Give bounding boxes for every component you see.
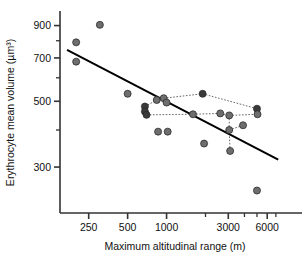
x-tick-label: 250 (80, 221, 98, 233)
data-point (153, 96, 160, 103)
y-tick-label: 900 (33, 19, 51, 31)
data-point (226, 127, 233, 134)
regression-trend-line (67, 50, 278, 160)
data-point (226, 112, 233, 119)
x-axis-title: Maximum altitudinal range (m) (104, 240, 245, 252)
data-point (143, 111, 150, 118)
data-point (227, 147, 234, 154)
connection-line (229, 114, 257, 115)
y-axis-title: Erythrocyte mean volume (µm³) (4, 39, 16, 186)
data-point (217, 110, 224, 117)
data-point (96, 21, 103, 28)
data-point (73, 58, 80, 65)
y-tick-label: 500 (33, 95, 51, 107)
x-tick-label: 1000 (155, 221, 179, 233)
data-point (240, 122, 247, 129)
connection-line (193, 113, 220, 114)
data-points (73, 21, 261, 194)
axis-labels: 900700500300250500100030006000Maximum al… (4, 19, 279, 252)
data-point (199, 90, 206, 97)
connection-line (203, 94, 257, 109)
data-point (253, 187, 260, 194)
y-tick-label: 300 (33, 161, 51, 173)
data-point (163, 99, 170, 106)
figure-container: 900700500300250500100030006000Maximum al… (0, 0, 305, 258)
data-point (124, 90, 131, 97)
data-point (164, 128, 171, 135)
y-tick-label: 700 (33, 52, 51, 64)
data-point (254, 111, 261, 118)
axis-layer (54, 11, 302, 219)
data-point (73, 39, 80, 46)
connection-line (164, 94, 203, 98)
scatter-plot: 900700500300250500100030006000Maximum al… (0, 0, 305, 258)
x-tick-label: 3000 (217, 221, 241, 233)
regression-line (67, 50, 278, 160)
x-tick-label: 6000 (256, 221, 280, 233)
x-tick-label: 500 (119, 221, 137, 233)
data-point (189, 111, 196, 118)
connection-line (147, 114, 193, 115)
data-point (201, 140, 208, 147)
data-point (155, 128, 162, 135)
